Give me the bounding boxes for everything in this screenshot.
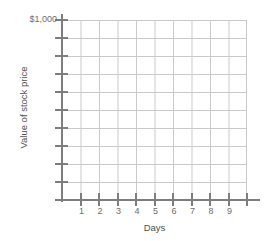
x-axis-tick-label: 4 — [127, 206, 147, 217]
y-axis-tick — [55, 145, 68, 147]
x-axis-tick — [98, 193, 100, 206]
x-axis-tick — [135, 193, 137, 206]
x-axis-tick — [154, 193, 156, 206]
x-axis-tick-label: 5 — [146, 206, 166, 217]
x-axis-tick — [228, 193, 230, 206]
x-axis-tick-label: 3 — [109, 206, 129, 217]
x-axis-tick-label: 7 — [183, 206, 203, 217]
x-axis-tick — [80, 193, 82, 206]
y-axis-tick — [55, 55, 68, 57]
x-axis-tick — [191, 193, 193, 206]
stock-price-chart: 123456789 $1,000 Days Value of stock pri… — [0, 0, 271, 241]
y-axis-tick — [55, 73, 68, 75]
y-axis-tick — [55, 181, 68, 183]
plot-area-grid — [62, 20, 247, 200]
y-axis-title: Value of stock price — [18, 48, 29, 168]
y-axis-tick — [55, 91, 68, 93]
y-axis-line — [61, 14, 63, 202]
x-axis-tick — [246, 193, 248, 206]
x-axis-tick-label: 2 — [90, 206, 110, 217]
x-axis-tick — [209, 193, 211, 206]
y-axis-top-tick-label: $1,000 — [29, 14, 57, 25]
y-axis-tick — [55, 163, 68, 165]
x-axis-tick — [172, 193, 174, 206]
y-axis-tick — [55, 37, 68, 39]
x-axis-title: Days — [62, 222, 247, 233]
x-axis-tick-label: 6 — [164, 206, 184, 217]
x-axis-tick-label: 8 — [201, 206, 221, 217]
x-axis-tick-label: 9 — [220, 206, 240, 217]
x-axis-tick — [117, 193, 119, 206]
y-axis-tick — [55, 127, 68, 129]
x-axis-tick-label: 1 — [72, 206, 92, 217]
y-axis-tick — [55, 109, 68, 111]
